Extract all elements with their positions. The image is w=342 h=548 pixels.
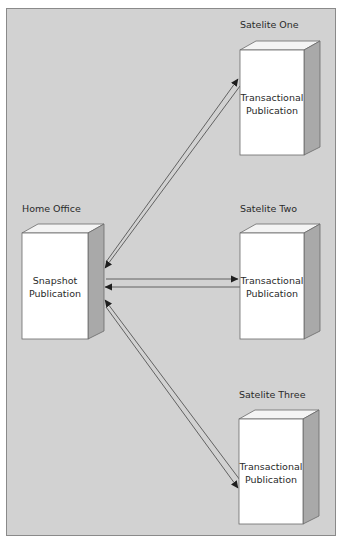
box-side-face [88,224,104,339]
box-front-face [240,233,304,339]
node-line-1: Transactional [240,275,304,286]
node-title: Satelite Three [239,389,306,400]
node-line-2: Publication [246,288,298,299]
node-title: Home Office [22,203,81,214]
node-line-1: Transactional [240,92,304,103]
node-title: Satelite Two [240,203,297,214]
node-line-1: Transactional [239,461,303,472]
box-side-face [304,41,320,155]
replication-diagram: Home Office Snapshot Publication Satelit… [0,0,342,548]
node-line-2: Publication [245,474,297,485]
box-side-face [304,224,320,339]
node-line-2: Publication [29,288,81,299]
node-line-1: Snapshot [33,275,78,286]
box-side-face [303,410,319,524]
box-front-face [22,233,88,339]
node-line-2: Publication [246,105,298,116]
node-title: Satelite One [240,19,299,30]
